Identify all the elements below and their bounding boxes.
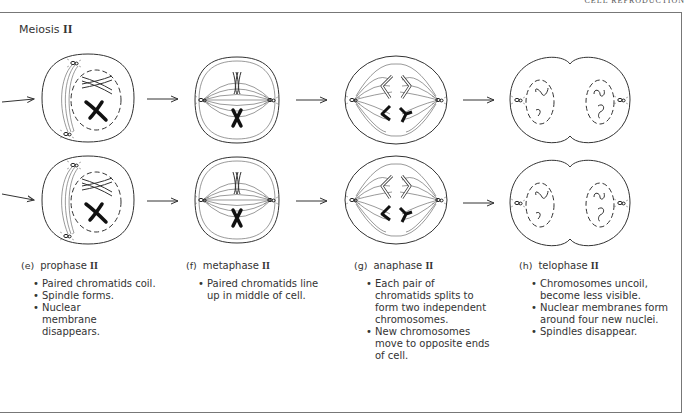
stage-letter: (g) <box>354 260 367 272</box>
stage-roman: II <box>90 260 98 271</box>
stage-name: telophase <box>538 260 587 271</box>
stage-roman: II <box>262 260 270 271</box>
telophase-cell-2 <box>510 160 630 245</box>
stage-roman: II <box>591 260 599 271</box>
bullet: Paired chromatids coil. <box>35 278 171 290</box>
meiosis-diagram <box>0 0 693 420</box>
arrow-in-icon <box>2 99 34 102</box>
caption-prophase: (e) prophase II Paired chromatids coil. … <box>21 260 171 338</box>
stage-name: anaphase <box>373 260 422 271</box>
telophase-cell-1 <box>510 57 630 142</box>
row-1 <box>2 54 630 144</box>
stage-name: prophase <box>40 260 87 271</box>
prophase-cell-2 <box>42 156 134 244</box>
bullet: Nuclear membranes form around four new n… <box>533 302 675 326</box>
metaphase-cell-2 <box>195 157 279 243</box>
row-2 <box>2 156 630 246</box>
caption-metaphase: (f) metaphase II Paired chromatids line … <box>186 260 336 302</box>
stage-roman: II <box>425 260 433 271</box>
bullet: Chromosomes uncoil, become less visible. <box>533 278 655 302</box>
anaphase-cell-2 <box>345 156 447 244</box>
bullet: Each pair of chromatids splits to form t… <box>368 278 490 326</box>
bullet: Nuclear membrane disappears. <box>35 302 132 338</box>
caption-telophase: (h) telophase II Chromosomes uncoil, bec… <box>519 260 679 338</box>
bullet: New chromosomes move to opposite ends of… <box>368 326 500 362</box>
stage-name: metaphase <box>203 260 259 271</box>
arrow-in-icon <box>2 194 34 200</box>
anaphase-cell-1 <box>345 56 447 144</box>
prophase-cell-1 <box>42 54 134 142</box>
metaphase-cell-1 <box>195 57 279 143</box>
caption-anaphase: (g) anaphase II Each pair of chromatids … <box>354 260 504 362</box>
bullet: Spindle forms. <box>35 290 171 302</box>
bullet: Spindles disappear. <box>533 326 679 338</box>
stage-letter: (h) <box>519 260 532 272</box>
stage-letter: (e) <box>21 260 34 272</box>
stage-letter: (f) <box>186 260 197 272</box>
bullet: Paired chromatids line up in middle of c… <box>200 278 325 302</box>
